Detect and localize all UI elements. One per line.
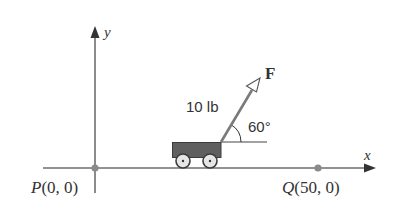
angle-label: 60° (248, 118, 271, 135)
force-magnitude: 10 lb (186, 98, 219, 115)
cart-force-diagram: x y P(0, 0) Q(50, 0) F 10 lb 60° (0, 0, 402, 208)
y-axis-label: y (102, 24, 111, 40)
point-q-name: Q (282, 178, 294, 197)
force-label: F (265, 64, 275, 83)
arrowhead-icon (247, 78, 261, 92)
point-p-label: P(0, 0) (30, 178, 78, 197)
point-q-label: Q(50, 0) (282, 178, 340, 197)
point-p-coords: (0, 0) (41, 178, 78, 197)
cart-wheel-left (176, 154, 190, 168)
angle-arc (231, 125, 241, 142)
point-p-name: P (30, 178, 41, 197)
point-q-coords: (50, 0) (294, 178, 339, 197)
x-axis-label: x (363, 147, 371, 163)
point-p-marker (91, 164, 98, 171)
point-q-marker (314, 164, 321, 171)
cart (173, 143, 222, 169)
cart-wheel-right (203, 154, 217, 168)
